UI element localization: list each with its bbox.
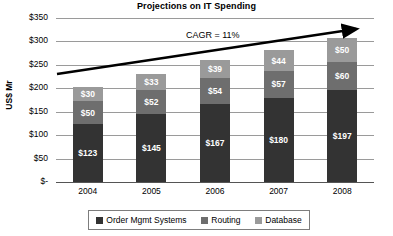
x-axis-line [56, 182, 374, 183]
bar-segment[interactable]: $54 [200, 78, 230, 103]
bar-segment[interactable]: $123 [73, 124, 103, 182]
bar-segment[interactable]: $30 [73, 87, 103, 101]
y-axis-title: US$ Mr [4, 65, 14, 125]
legend-item[interactable]: Order Mgmt Systems [96, 215, 186, 225]
bar-segment[interactable]: $60 [327, 62, 357, 90]
bar-segment[interactable]: $50 [73, 101, 103, 124]
x-axis-tick-label: 2004 [58, 186, 118, 196]
legend-swatch-icon [96, 217, 103, 224]
bar-segment[interactable]: $39 [200, 60, 230, 78]
bar-segment[interactable]: $57 [264, 71, 294, 98]
legend-label: Database [265, 215, 301, 225]
bar-segment[interactable]: $33 [136, 74, 166, 89]
y-axis-tick-label: $250 [0, 60, 48, 69]
bar-segment[interactable]: $52 [136, 90, 166, 114]
chart-title: Projections on IT Spending [0, 1, 393, 11]
bar-group[interactable]: $44$57$180 [264, 50, 294, 182]
bar-segment[interactable]: $180 [264, 98, 294, 182]
y-axis-tick-label: $200 [0, 83, 48, 92]
bar-group[interactable]: $33$52$145 [136, 74, 166, 182]
legend-swatch-icon [255, 217, 262, 224]
x-axis-tick-label: 2008 [312, 186, 372, 196]
y-axis-tick-label: $- [0, 177, 48, 186]
bar-segment[interactable]: $145 [136, 114, 166, 182]
bar-segment[interactable]: $197 [327, 90, 357, 182]
x-axis-tick-label: 2005 [121, 186, 181, 196]
bar-segment[interactable]: $44 [264, 50, 294, 71]
legend-label: Order Mgmt Systems [106, 215, 186, 225]
x-axis-tick-label: 2006 [185, 186, 245, 196]
legend-swatch-icon [201, 217, 208, 224]
legend-item[interactable]: Routing [201, 215, 240, 225]
legend-item[interactable]: Database [255, 215, 301, 225]
y-axis-tick-label: $150 [0, 107, 48, 116]
y-axis-tick-label: $300 [0, 36, 48, 45]
legend-label: Routing [211, 215, 240, 225]
x-axis-tick-label: 2007 [249, 186, 309, 196]
bar-group[interactable]: $30$50$123 [73, 87, 103, 182]
chart-container: Projections on IT Spending US$ Mr $350$3… [0, 0, 393, 236]
y-axis-tick-label: $100 [0, 130, 48, 139]
bar-group[interactable]: $39$54$167 [200, 60, 230, 182]
bar-segment[interactable]: $50 [327, 38, 357, 61]
y-axis-tick-label: $350 [0, 13, 48, 22]
bar-group[interactable]: $50$60$197 [327, 38, 357, 182]
plot-area: $30$50$123$33$52$145$39$54$167$44$57$180… [56, 18, 374, 182]
cagr-annotation-label: CAGR = 11% [186, 30, 240, 40]
gridline [56, 18, 374, 19]
y-axis-tick-label: $50 [0, 154, 48, 163]
chart-legend: Order Mgmt SystemsRoutingDatabase [88, 210, 310, 230]
bar-segment[interactable]: $167 [200, 104, 230, 182]
